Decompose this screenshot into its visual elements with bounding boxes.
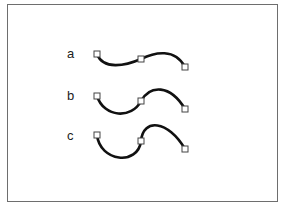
anchor-point[interactable] xyxy=(182,106,188,112)
anchor-point[interactable] xyxy=(182,146,188,152)
anchor-point[interactable] xyxy=(138,138,144,144)
anchor-point[interactable] xyxy=(94,51,100,57)
curve-group-b: b xyxy=(67,88,188,114)
curve-label-b: b xyxy=(67,88,74,103)
curve-label-a: a xyxy=(67,46,75,61)
curves-diagram: a b c xyxy=(0,0,288,209)
curve-group-a: a xyxy=(67,46,188,70)
anchor-point[interactable] xyxy=(138,98,144,104)
anchor-point[interactable] xyxy=(94,132,100,138)
anchor-point[interactable] xyxy=(138,56,144,62)
anchor-point[interactable] xyxy=(94,93,100,99)
curve-group-c: c xyxy=(67,125,188,157)
anchor-point[interactable] xyxy=(182,64,188,70)
curve-label-c: c xyxy=(67,128,74,143)
